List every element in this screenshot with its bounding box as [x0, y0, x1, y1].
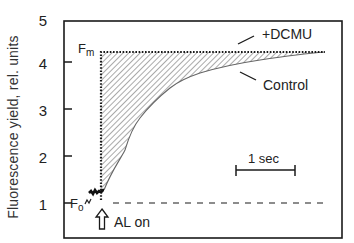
fm-label: Fm — [78, 41, 94, 58]
dcmu-label: +DCMU — [262, 26, 312, 42]
fo-label-main: F — [70, 196, 78, 211]
al-on-label: AL on — [114, 214, 150, 230]
actinic-light-arrow-icon — [96, 209, 108, 229]
scale-bar-label: 1 sec — [248, 151, 279, 166]
fo-label: Fo — [70, 196, 84, 213]
y-tick-label-3: 3 — [39, 102, 47, 119]
fm-label-sub: m — [86, 47, 94, 58]
dcmu-leader — [238, 36, 254, 44]
y-tick-label-2: 2 — [39, 149, 47, 166]
y-tick-label-4: 4 — [39, 55, 47, 72]
control-leader — [240, 72, 256, 80]
y-tick-label-1: 1 — [39, 196, 47, 213]
y-tick-label-5: 5 — [39, 12, 47, 29]
y-axis-label: Fluorescence yield, rel. units — [5, 35, 21, 218]
fo-label-sub: o — [78, 202, 84, 213]
fm-label-main: F — [78, 41, 86, 56]
scale-bar — [236, 165, 295, 176]
y-ticks — [64, 62, 72, 203]
fo-trace — [85, 199, 91, 204]
control-label: Control — [263, 77, 308, 93]
